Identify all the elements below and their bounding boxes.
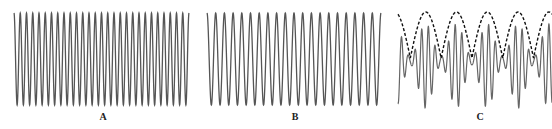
wave-c-plot [398, 8, 552, 108]
wave-a-plot [14, 12, 189, 106]
waveform-line [14, 13, 189, 105]
panel-b [207, 12, 381, 106]
panel-c-label: C [470, 111, 490, 122]
waveform-line [207, 13, 381, 105]
panel-b-label: B [285, 111, 305, 122]
panel-a [14, 12, 189, 106]
wave-b-plot [207, 12, 381, 106]
panel-c [398, 8, 552, 108]
panel-a-label: A [93, 111, 113, 122]
